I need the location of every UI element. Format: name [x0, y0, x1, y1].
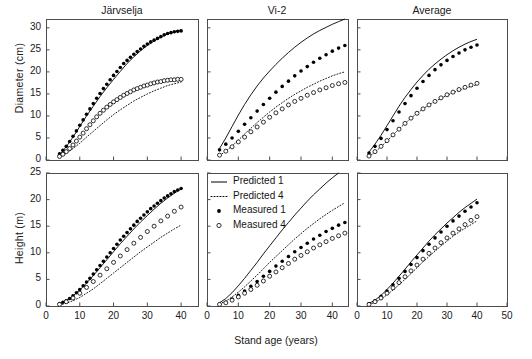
panel-title-vi-2: Vi-2 — [207, 4, 347, 16]
y-tick-label-height-15: 15 — [14, 219, 41, 230]
y-tick-label-height-20: 20 — [14, 193, 41, 204]
y-tick-label-diameter-10: 10 — [14, 109, 41, 120]
x-tick-label-p5-40: 40 — [463, 310, 491, 321]
x-tick-label-p5-30: 30 — [433, 310, 461, 321]
x-tick-label-p4-20: 20 — [256, 310, 284, 321]
x-tick-label-p3-40: 40 — [167, 310, 195, 321]
figure-panel-grid: Diameter (cm) Height (m) Stand age (year… — [0, 0, 532, 359]
x-axis-title-stand-age: Stand age (years) — [196, 334, 356, 346]
x-tick-label-p5-20: 20 — [403, 310, 431, 321]
legend-label-measured-1: Measured 1 — [233, 204, 286, 215]
y-tick-label-height-25: 25 — [14, 166, 41, 177]
x-tick-label-p3-10: 10 — [66, 310, 94, 321]
x-tick-label-p4-10: 10 — [224, 310, 252, 321]
panel-title-average: Average — [362, 4, 502, 16]
x-tick-label-p3-0: 0 — [32, 310, 60, 321]
legend-marker-open-circle — [217, 223, 221, 227]
x-tick-label-p3-20: 20 — [100, 310, 128, 321]
legend-label-predicted-1: Predicted 1 — [233, 175, 284, 186]
legend-label-predicted-4: Predicted 4 — [233, 190, 284, 201]
y-tick-label-diameter-15: 15 — [14, 87, 41, 98]
y-tick-label-diameter-5: 5 — [14, 131, 41, 142]
y-tick-label-diameter-25: 25 — [14, 43, 41, 54]
y-axis-title-diameter: Diameter (cm) — [13, 18, 25, 138]
y-tick-label-diameter-30: 30 — [14, 21, 41, 32]
x-tick-label-p4-0: 0 — [193, 310, 221, 321]
x-tick-label-p5-10: 10 — [373, 310, 401, 321]
legend-label-measured-4: Measured 4 — [233, 219, 286, 230]
x-tick-label-p5-50: 50 — [493, 310, 521, 321]
y-tick-label-diameter-0: 0 — [14, 153, 41, 164]
y-tick-label-height-10: 10 — [14, 246, 41, 257]
x-tick-label-p3-30: 30 — [133, 310, 161, 321]
x-tick-label-p5-0: 0 — [343, 310, 371, 321]
x-tick-label-p4-30: 30 — [287, 310, 315, 321]
y-tick-label-height-5: 5 — [14, 272, 41, 283]
y-tick-label-height-0: 0 — [14, 299, 41, 310]
panel-title-j-rvselja: Järvselja — [52, 4, 192, 16]
legend-marker-filled-circle — [217, 209, 221, 213]
y-tick-label-diameter-20: 20 — [14, 65, 41, 76]
